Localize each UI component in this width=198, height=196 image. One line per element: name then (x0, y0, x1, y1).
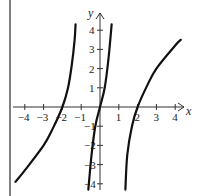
x-tick-label: 3 (153, 111, 159, 123)
x-tick-label: −3 (37, 111, 49, 123)
x-tick-label: 4 (172, 111, 178, 123)
y-tick-label: 3 (89, 43, 95, 55)
x-axis-label: x (185, 104, 192, 118)
y-tick-label: 1 (89, 82, 95, 94)
x-tick-label: −4 (18, 111, 30, 123)
y-tick-label: 2 (89, 63, 95, 75)
curve-branch-0 (15, 24, 75, 181)
axes (13, 13, 184, 190)
x-tick-label: 1 (116, 111, 122, 123)
function-graph: −4−3−2−112344321−1−2−3−4 x y (0, 0, 198, 196)
y-axis-label: y (87, 6, 94, 20)
y-tick-label: 4 (89, 24, 95, 36)
